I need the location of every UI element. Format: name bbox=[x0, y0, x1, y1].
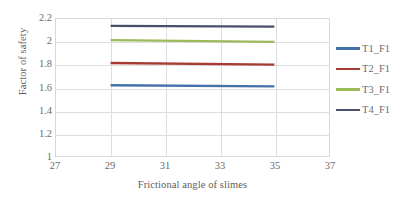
series-line-t4_f1 bbox=[111, 26, 275, 27]
series-lines bbox=[56, 19, 329, 156]
legend-label: T4_F1 bbox=[362, 104, 390, 115]
legend-color-swatch bbox=[336, 109, 360, 112]
legend-color-swatch bbox=[336, 88, 360, 91]
x-tick-label: 33 bbox=[200, 160, 240, 172]
x-tick-label: 37 bbox=[310, 160, 350, 172]
x-axis-tick-labels: 272931333537 bbox=[55, 160, 330, 174]
legend-item[interactable]: T1_F1 bbox=[336, 38, 411, 59]
y-axis-tick-labels: 11.21.41.61.822.2 bbox=[18, 18, 52, 157]
line-chart: Factor of safety 11.21.41.61.822.2 27293… bbox=[0, 0, 411, 203]
legend-label: T1_F1 bbox=[362, 43, 390, 54]
legend-item[interactable]: T3_F1 bbox=[336, 79, 411, 100]
x-tick-label: 31 bbox=[145, 160, 185, 172]
series-line-t3_f1 bbox=[111, 40, 275, 42]
x-tick-label: 29 bbox=[90, 160, 130, 172]
chart-legend: T1_F1T2_F1T3_F1T4_F1 bbox=[336, 38, 411, 120]
legend-color-swatch bbox=[336, 47, 360, 50]
x-tick-label: 35 bbox=[255, 160, 295, 172]
y-tick-label: 1.4 bbox=[18, 106, 52, 116]
x-tick-label: 27 bbox=[35, 160, 75, 172]
series-line-t2_f1 bbox=[111, 63, 275, 65]
legend-item[interactable]: T2_F1 bbox=[336, 59, 411, 80]
legend-color-swatch bbox=[336, 68, 360, 71]
y-tick-label: 2 bbox=[18, 36, 52, 46]
legend-label: T2_F1 bbox=[362, 63, 390, 74]
y-tick-label: 1.2 bbox=[18, 129, 52, 139]
series-line-t1_f1 bbox=[111, 85, 275, 86]
y-tick-label: 2.2 bbox=[18, 13, 52, 23]
y-tick-label: 1.6 bbox=[18, 83, 52, 93]
legend-label: T3_F1 bbox=[362, 84, 390, 95]
y-tick-label: 1.8 bbox=[18, 59, 52, 69]
x-axis-title: Frictional angle of slimes bbox=[55, 179, 330, 190]
plot-area bbox=[55, 18, 330, 157]
legend-item[interactable]: T4_F1 bbox=[336, 100, 411, 121]
